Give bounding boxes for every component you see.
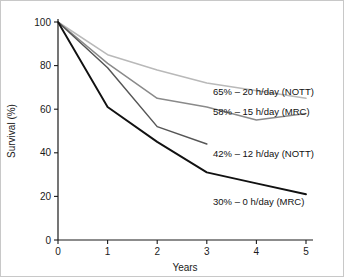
x-tick-label: 1 bbox=[105, 246, 111, 257]
y-tick-label: 100 bbox=[34, 17, 51, 28]
y-tick-label: 60 bbox=[40, 104, 52, 115]
survival-chart-figure: 100806040200 012345 Survival (%) Years 6… bbox=[0, 0, 344, 277]
series-annotation-2: 42% – 12 h/day (NOTT) bbox=[213, 148, 314, 159]
chart-canvas: 100806040200 012345 Survival (%) Years 6… bbox=[1, 1, 344, 277]
x-axis-title: Years bbox=[172, 262, 197, 273]
x-tick-marks bbox=[58, 240, 306, 244]
y-tick-label: 20 bbox=[40, 191, 52, 202]
x-tick-label: 0 bbox=[55, 246, 61, 257]
y-tick-label: 80 bbox=[40, 60, 52, 71]
y-tick-label: 0 bbox=[45, 235, 51, 246]
series-annotation-0: 65% – 20 h/day (NOTT) bbox=[213, 86, 314, 97]
series-annotation-1: 58% – 15 h/day (MRC) bbox=[213, 106, 310, 117]
x-tick-labels: 012345 bbox=[55, 246, 309, 257]
y-tick-label: 40 bbox=[40, 147, 52, 158]
x-tick-label: 2 bbox=[154, 246, 160, 257]
y-tick-labels: 100806040200 bbox=[34, 17, 51, 246]
series-annotations: 65% – 20 h/day (NOTT)58% – 15 h/day (MRC… bbox=[213, 86, 314, 207]
x-tick-label: 3 bbox=[204, 246, 210, 257]
x-tick-label: 5 bbox=[303, 246, 309, 257]
y-axis-title: Survival (%) bbox=[6, 104, 17, 158]
series-annotation-3: 30% – 0 h/day (MRC) bbox=[213, 196, 304, 207]
x-tick-label: 4 bbox=[254, 246, 260, 257]
